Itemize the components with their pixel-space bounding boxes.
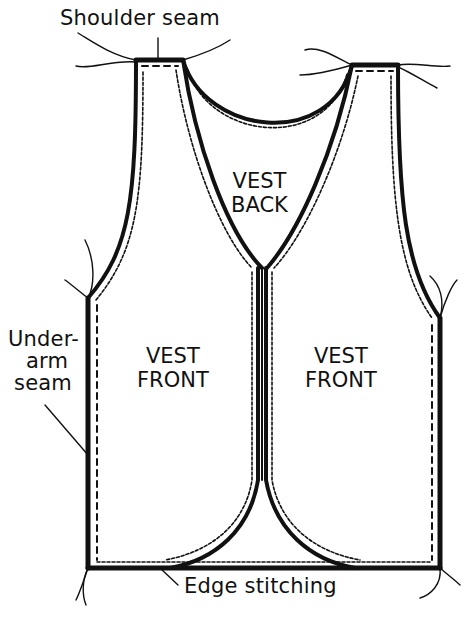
shoulder-seam-label: Shoulder seam bbox=[60, 6, 220, 30]
back-left-edge bbox=[183, 60, 262, 268]
left-front-center-edge bbox=[170, 268, 258, 568]
underarm-line-1: Under- bbox=[8, 328, 79, 350]
vest-back-label: VEST BACK bbox=[231, 169, 288, 217]
vest-front-right-line-1: VEST bbox=[305, 344, 377, 368]
underarm-seam-label: Under- arm seam bbox=[8, 328, 79, 394]
underarm-line-2: arm bbox=[8, 350, 79, 372]
vest-front-left-label: VEST FRONT bbox=[137, 344, 209, 392]
vest-front-left-line-2: FRONT bbox=[137, 368, 209, 392]
left-armhole bbox=[88, 60, 136, 298]
edge-stitching-label: Edge stitching bbox=[184, 574, 337, 598]
underarm-line-3: seam bbox=[8, 372, 79, 394]
vest-drawing bbox=[0, 0, 471, 618]
vest-diagram: Shoulder seam Under- arm seam Edge stitc… bbox=[0, 0, 471, 618]
underarm-leader-line bbox=[45, 405, 88, 455]
right-front-center-edge bbox=[266, 268, 355, 568]
vest-back-line-2: BACK bbox=[231, 193, 288, 217]
back-neckline bbox=[183, 60, 352, 123]
edge-leader-line bbox=[160, 568, 178, 585]
vest-back-line-1: VEST bbox=[231, 169, 288, 193]
vest-front-left-line-1: VEST bbox=[137, 344, 209, 368]
vest-front-right-label: VEST FRONT bbox=[305, 344, 377, 392]
vest-front-right-line-2: FRONT bbox=[305, 368, 377, 392]
